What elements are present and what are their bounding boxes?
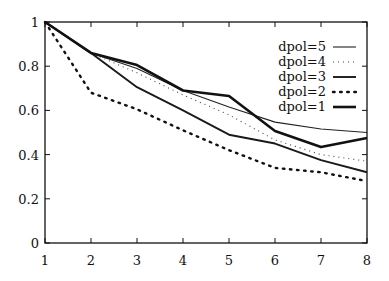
line-chart: 1234567800.20.40.60.81 dpol=5dpol=4dpol=… [0, 0, 389, 281]
y-tick-label: 0.8 [18, 59, 39, 74]
x-tick-label: 2 [87, 253, 95, 268]
x-tick-label: 3 [133, 253, 141, 268]
x-tick-label: 1 [41, 253, 49, 268]
legend-label: dpol=2 [278, 84, 326, 99]
x-tick-label: 4 [179, 253, 187, 268]
y-tick-label: 0.4 [18, 148, 39, 163]
legend-label: dpol=1 [278, 99, 326, 114]
legend-label: dpol=3 [278, 69, 326, 84]
x-tick-label: 5 [225, 253, 233, 268]
legend-label: dpol=5 [278, 39, 326, 54]
x-tick-label: 7 [317, 253, 325, 268]
x-tick-label: 8 [363, 253, 371, 268]
x-tick-label: 6 [271, 253, 279, 268]
y-tick-label: 0.2 [18, 192, 39, 207]
y-tick-label: 0.6 [18, 103, 39, 118]
y-tick-label: 1 [31, 15, 39, 30]
legend: dpol=5dpol=4dpol=3dpol=2dpol=1 [278, 39, 356, 114]
legend-label: dpol=4 [278, 54, 326, 69]
y-tick-label: 0 [31, 236, 39, 251]
